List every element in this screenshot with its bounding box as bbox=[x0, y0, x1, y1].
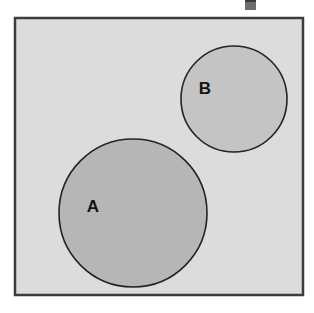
set-a-circle bbox=[59, 139, 207, 287]
set-b-circle bbox=[181, 46, 287, 152]
set-a-label: A bbox=[87, 197, 99, 216]
venn-diagram-canvas: A B bbox=[0, 0, 314, 313]
set-b-label: B bbox=[199, 79, 211, 98]
scan-artifact bbox=[245, 0, 256, 10]
venn-diagram-figure: A B bbox=[0, 0, 314, 313]
